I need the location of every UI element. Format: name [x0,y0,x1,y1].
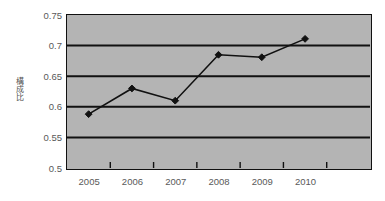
series-line [89,39,305,114]
data-series-layer [67,15,370,168]
x-tick-label: 2005 [67,176,111,187]
x-tick-label: 2007 [154,176,198,187]
plot-area [66,14,372,170]
data-point-marker [85,111,92,118]
data-point-marker [258,54,265,61]
x-tick-label: 2009 [240,176,284,187]
data-point-marker [302,35,309,42]
x-tick-label: 2010 [284,176,328,187]
line-chart: 構成比 0.750.70.650.60.550.5 20052006200720… [0,0,385,201]
x-tick-label: 2006 [110,176,154,187]
data-point-marker [129,85,136,92]
x-tick-label: 2008 [197,176,241,187]
